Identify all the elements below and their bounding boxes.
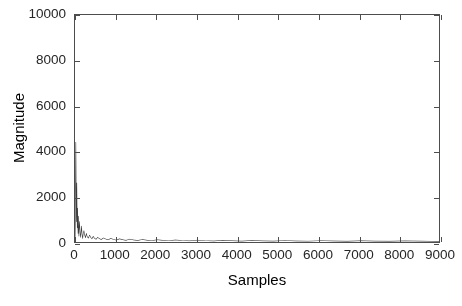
x-tick-label: 3000	[181, 248, 211, 262]
y-tick-mark	[75, 152, 80, 153]
y-tick-mark	[75, 107, 80, 108]
x-tick-label: 6000	[303, 248, 333, 262]
y-tick-mark	[75, 61, 80, 62]
x-axis-label: Samples	[74, 272, 440, 287]
spectrum-line-plot	[75, 15, 439, 242]
y-tick-mark	[434, 198, 439, 199]
x-tick-mark	[238, 237, 239, 242]
x-tick-mark	[400, 15, 401, 20]
x-tick-mark	[116, 15, 117, 20]
x-tick-mark	[441, 237, 442, 242]
x-tick-label: 0	[70, 248, 78, 262]
x-tick-mark	[156, 237, 157, 242]
y-tick-mark	[434, 15, 439, 16]
x-tick-mark	[238, 15, 239, 20]
y-tick-label: 2000	[36, 190, 66, 204]
figure-container: 0100020003000400050006000700080009000 02…	[0, 0, 462, 306]
x-tick-mark	[319, 15, 320, 20]
y-axis-label: Magnitude	[10, 14, 28, 243]
x-tick-mark	[156, 15, 157, 20]
x-tick-label: 5000	[262, 248, 292, 262]
y-tick-mark	[434, 61, 439, 62]
y-tick-mark	[434, 107, 439, 108]
x-tick-label: 8000	[384, 248, 414, 262]
x-tick-label: 9000	[425, 248, 455, 262]
y-tick-label: 6000	[36, 99, 66, 113]
x-tick-label: 7000	[344, 248, 374, 262]
x-tick-mark	[400, 237, 401, 242]
y-tick-mark	[75, 198, 80, 199]
x-tick-label: 1000	[100, 248, 130, 262]
x-tick-mark	[197, 15, 198, 20]
plot-area	[74, 14, 440, 243]
y-tick-label: 4000	[36, 145, 66, 159]
y-tick-label: 0	[58, 236, 66, 250]
x-tick-mark	[278, 237, 279, 242]
x-tick-mark	[441, 15, 442, 20]
x-tick-mark	[360, 237, 361, 242]
x-tick-mark	[75, 237, 76, 242]
x-tick-mark	[319, 237, 320, 242]
y-tick-mark	[75, 15, 80, 16]
x-tick-mark	[360, 15, 361, 20]
x-tick-label: 2000	[140, 248, 170, 262]
x-tick-mark	[116, 237, 117, 242]
y-tick-mark	[434, 244, 439, 245]
x-tick-mark	[197, 237, 198, 242]
y-tick-mark	[75, 244, 80, 245]
x-tick-label: 4000	[222, 248, 252, 262]
y-tick-label: 8000	[36, 53, 66, 67]
y-tick-mark	[434, 152, 439, 153]
y-tick-label: 10000	[28, 7, 66, 21]
x-tick-mark	[278, 15, 279, 20]
